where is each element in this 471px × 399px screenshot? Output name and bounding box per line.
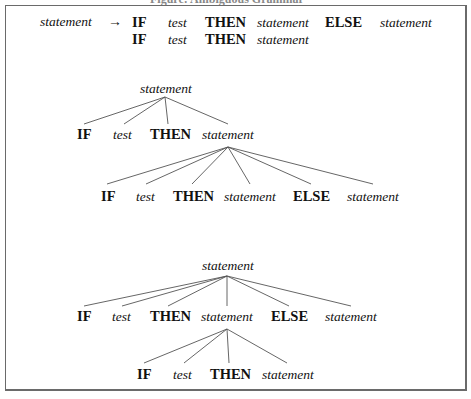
rule-alt2-token: test: [168, 33, 187, 47]
rule-alt2-token: IF: [132, 32, 147, 46]
derives-arrow-icon: →: [108, 15, 122, 29]
rule-alt1-token: ELSE: [325, 15, 362, 29]
rule-alt1-token: statement: [380, 16, 432, 30]
rule-alt1-token: IF: [132, 15, 147, 29]
tree2-node: IF: [77, 309, 92, 323]
tree2-node: IF: [137, 367, 152, 381]
rule-alt1-token: test: [168, 16, 187, 30]
tree2-node: test: [173, 368, 192, 382]
tree1-node: IF: [101, 189, 116, 203]
tree1-node: statement: [202, 128, 254, 142]
tree2-node: test: [112, 310, 131, 324]
rule-alt1-token: statement: [257, 16, 309, 30]
tree1-node: ELSE: [293, 189, 330, 203]
tree2-node: statement: [201, 310, 253, 324]
rule-alt1-token: THEN: [205, 15, 246, 29]
tree1-node: THEN: [173, 189, 214, 203]
tree2-root: statement: [202, 259, 254, 273]
tree2-node: THEN: [150, 309, 191, 323]
tree2-node: ELSE: [271, 309, 308, 323]
tree2-node: statement: [262, 368, 314, 382]
rule-alt2-token: statement: [257, 33, 309, 47]
rule-lhs: statement: [40, 15, 92, 29]
tree2-node: statement: [325, 310, 377, 324]
tree1-node: IF: [77, 127, 92, 141]
tree1-node: THEN: [150, 127, 191, 141]
tree1-node: test: [113, 128, 132, 142]
tree1-node: statement: [347, 190, 399, 204]
tree1-node: statement: [224, 190, 276, 204]
tree1-node: test: [136, 190, 155, 204]
rule-alt2-token: THEN: [205, 32, 246, 46]
tree2-node: THEN: [210, 367, 251, 381]
tree1-root: statement: [140, 82, 192, 96]
